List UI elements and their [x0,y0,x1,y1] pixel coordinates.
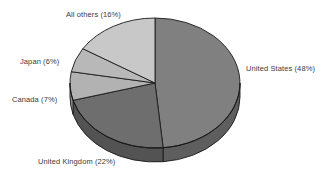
pie-label-japan: Japan (6%) [20,57,59,66]
pie-label-canada: Canada (7%) [12,95,57,104]
pie-chart-graphic [0,0,327,177]
pie-label-all-others: All others (16%) [66,10,121,19]
pie-label-united-states: United States (48%) [246,64,315,73]
pie-top-face [70,18,240,148]
pie-chart-figure: All others (16%) United States (48%) Jap… [0,0,327,177]
pie-label-united-kingdom: United Kingdom (22%) [38,157,115,166]
